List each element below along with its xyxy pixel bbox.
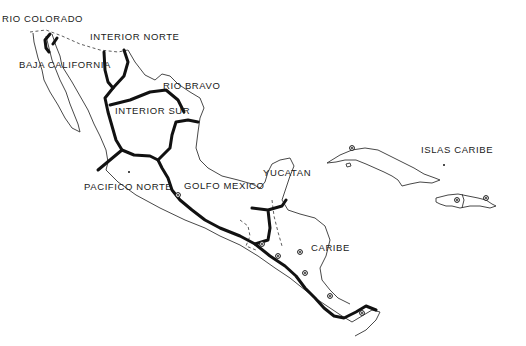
label-pacifico-norte: PACIFICO NORTE [84, 181, 172, 192]
label-yucatan: YUCATAN [263, 167, 311, 178]
label-islas-caribe: ISLAS CARIBE [421, 144, 493, 155]
route-rio-bravo [158, 120, 198, 160]
route-interior-norte-east [113, 50, 128, 88]
haiti-dr-border [462, 194, 464, 208]
route-yucatan [252, 200, 286, 244]
label-rio-colorado: RIO COLORADO [2, 13, 83, 24]
route-pacifico [98, 150, 122, 170]
label-caribe: CARIBE [311, 242, 350, 253]
label-rio-bravo: RIO BRAVO [163, 80, 220, 91]
isla-juventud [346, 163, 351, 167]
label-golfo-mexico: GOLFO MEXICO [184, 180, 265, 191]
label-interior-norte: INTERIOR NORTE [90, 31, 180, 42]
label-interior-sur: INTERIOR SUR [115, 105, 190, 116]
label-baja-california: BAJA CALIFORNIA [19, 59, 111, 70]
gulf-coastline [128, 50, 350, 304]
